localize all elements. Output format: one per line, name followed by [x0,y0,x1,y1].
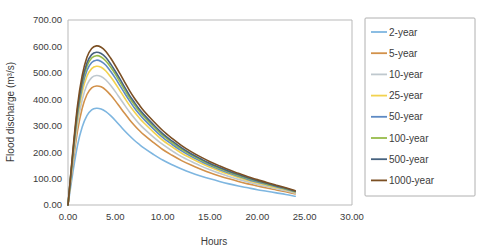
x-tick-label: 20.00 [245,211,269,222]
y-tick-label: 400.00 [33,94,62,105]
x-tick-label: 30.00 [340,211,364,222]
x-tick-label: 15.00 [198,211,222,222]
legend-label-1000-year: 1000-year [389,175,435,186]
series-line-100-year [68,56,295,205]
series-line-1000-year [68,46,295,205]
x-tick-label: 0.00 [59,211,78,222]
plot-frame-border [68,20,352,205]
y-tick-label: 300.00 [33,120,62,131]
legend-label-50-year: 50-year [389,111,424,122]
series-line-50-year [68,60,295,205]
chart-svg: 0.00100.00200.00300.00400.00500.00600.00… [0,0,479,251]
y-tick-label: 100.00 [33,173,62,184]
x-tick-label: 10.00 [151,211,175,222]
legend-label-500-year: 500-year [389,154,429,165]
legend-label-25-year: 25-year [389,90,424,101]
series-line-500-year [68,52,295,205]
series-line-10-year [68,75,295,205]
y-tick-label: 0.00 [44,199,63,210]
chart-legend: 2-year5-year10-year25-year50-year100-yea… [365,18,475,196]
y-tick-label: 200.00 [33,147,62,158]
legend-label-2-year: 2-year [389,27,418,38]
y-tick-label: 500.00 [33,67,62,78]
y-axis-title: Flood discharge (m³/s) [5,62,16,162]
legend-border-box [365,18,475,196]
legend-label-5-year: 5-year [389,48,418,59]
series-lines [68,46,295,205]
y-axis-tick-labels: 0.00100.00200.00300.00400.00500.00600.00… [33,14,62,210]
x-tick-label: 25.00 [293,211,317,222]
plot-frame [68,20,352,205]
x-tick-label: 5.00 [106,211,125,222]
flood-hydrograph-chart: 0.00100.00200.00300.00400.00500.00600.00… [0,0,479,251]
y-tick-label: 700.00 [33,14,62,25]
legend-label-10-year: 10-year [389,69,424,80]
legend-label-100-year: 100-year [389,133,429,144]
y-tick-label: 600.00 [33,41,62,52]
x-axis-title: Hours [201,236,228,247]
x-axis-tick-labels: 0.005.0010.0015.0020.0025.0030.00 [59,211,364,222]
